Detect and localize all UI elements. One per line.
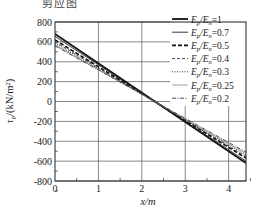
legend-entry: Ep/En=1	[190, 15, 222, 26]
x-tick-label: 0	[53, 183, 58, 194]
y-tick-label: -200	[34, 116, 52, 127]
y-tick-label: -600	[34, 156, 52, 167]
x-tick-label: 3	[183, 183, 188, 194]
y-tick-label: 600	[37, 36, 52, 47]
y-tick-label: 400	[37, 56, 52, 67]
shear-stress-chart: Ep/En=1Ep/En=0.7Ep/En=0.5Ep/En=0.4Ep/En=…	[0, 0, 257, 215]
y-tick-label: 800	[37, 17, 52, 28]
y-tick-label: 200	[37, 76, 52, 87]
x-tick-label: 1	[96, 183, 101, 194]
legend: Ep/En=1Ep/En=0.7Ep/En=0.5Ep/En=0.4Ep/En=…	[170, 14, 256, 106]
x-axis-label: x/m	[139, 196, 156, 207]
y-tick-label: -800	[34, 176, 52, 187]
y-axis-label: τp/(kN/m2)	[4, 78, 17, 123]
y-tick-label: -400	[34, 136, 52, 147]
y-tick-label: 0	[47, 96, 52, 107]
x-tick-label: 4	[226, 183, 231, 194]
x-tick-label: 2	[139, 183, 144, 194]
legend-entry: Ep/En=0.25	[190, 81, 234, 92]
